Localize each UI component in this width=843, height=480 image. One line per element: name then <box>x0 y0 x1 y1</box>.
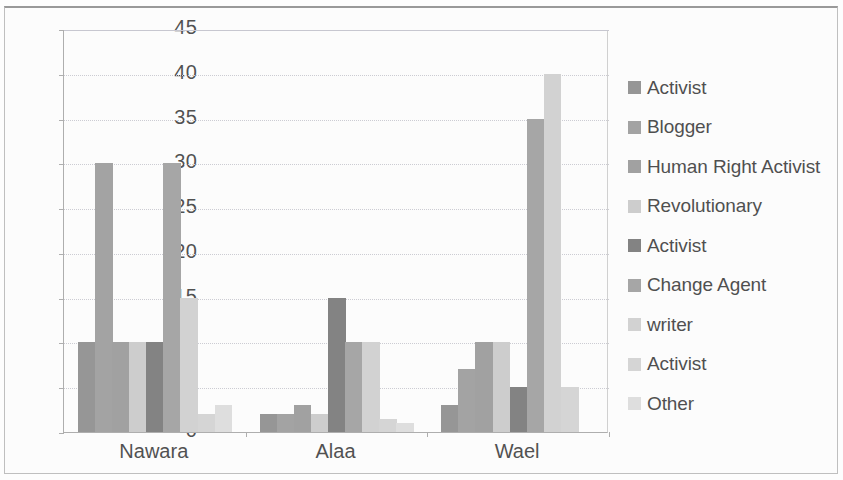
legend-item[interactable]: Revolutionary <box>628 187 836 227</box>
bar <box>294 405 312 432</box>
bar <box>198 414 216 432</box>
legend-swatch-icon <box>628 160 641 173</box>
gridline <box>64 30 609 31</box>
legend-item-label: Activist <box>647 353 706 375</box>
x-axis-category-label: Alaa <box>245 440 427 463</box>
bar <box>180 298 198 432</box>
bar <box>379 419 397 432</box>
y-axis-tick <box>59 433 64 434</box>
y-axis-tick <box>59 120 64 121</box>
legend-item[interactable]: Human Right Activist <box>628 147 836 187</box>
y-axis-tick <box>59 343 64 344</box>
legend-item-label: Other <box>647 393 694 415</box>
legend-item[interactable]: Blogger <box>628 108 836 148</box>
bar <box>561 387 579 432</box>
bar <box>95 163 113 432</box>
x-axis-separator <box>609 432 610 437</box>
x-axis-separator <box>246 432 247 437</box>
legend-swatch-icon <box>628 397 641 410</box>
bar <box>215 405 233 432</box>
legend-item[interactable]: Change Agent <box>628 266 836 306</box>
x-axis-category-label: Wael <box>426 440 608 463</box>
y-axis-tick <box>59 254 64 255</box>
x-axis-category-label: Nawara <box>63 440 245 463</box>
bar <box>78 342 96 432</box>
plot-wrapper <box>63 30 608 433</box>
y-axis-tick <box>59 30 64 31</box>
bar <box>129 342 147 432</box>
bar <box>510 387 528 432</box>
legend-item-label: Blogger <box>647 116 712 138</box>
legend-item-label: Revolutionary <box>647 195 762 217</box>
bar <box>345 342 363 432</box>
bar <box>441 405 459 432</box>
bar <box>328 298 346 432</box>
legend-item-label: Activist <box>647 235 706 257</box>
legend-swatch-icon <box>628 81 641 94</box>
legend-item-label: writer <box>647 314 693 336</box>
bar <box>277 414 295 432</box>
legend-item[interactable]: Activist <box>628 226 836 266</box>
legend-item[interactable]: Activist <box>628 68 836 108</box>
bar <box>163 163 181 432</box>
bar <box>396 423 414 432</box>
legend-swatch-icon <box>628 200 641 213</box>
legend-item-label: Change Agent <box>647 274 766 296</box>
y-axis-tick <box>59 164 64 165</box>
bar <box>527 119 545 432</box>
bar <box>112 342 130 432</box>
legend-swatch-icon <box>628 239 641 252</box>
legend-item[interactable]: Other <box>628 384 836 424</box>
chart-screenshot: 051015202530354045 NawaraAlaaWael Activi… <box>0 0 843 480</box>
legend-swatch-icon <box>628 121 641 134</box>
bar <box>475 342 493 432</box>
legend-swatch-icon <box>628 279 641 292</box>
legend-item-label: Activist <box>647 77 706 99</box>
bar <box>458 369 476 432</box>
x-axis-separator <box>427 432 428 437</box>
chart-legend: ActivistBloggerHuman Right ActivistRevol… <box>628 68 836 424</box>
legend-item[interactable]: Activist <box>628 345 836 385</box>
bar <box>544 74 562 432</box>
legend-swatch-icon <box>628 318 641 331</box>
bar <box>493 342 511 432</box>
y-axis-tick <box>59 209 64 210</box>
bar <box>260 414 278 432</box>
bar <box>362 342 380 432</box>
bar <box>311 414 329 432</box>
y-axis-tick <box>59 299 64 300</box>
gridline <box>64 75 609 76</box>
legend-swatch-icon <box>628 358 641 371</box>
bar <box>146 342 164 432</box>
legend-item[interactable]: writer <box>628 305 836 345</box>
legend-item-label: Human Right Activist <box>647 156 820 178</box>
y-axis-tick <box>59 75 64 76</box>
plot-area <box>63 30 608 433</box>
y-axis-tick <box>59 388 64 389</box>
